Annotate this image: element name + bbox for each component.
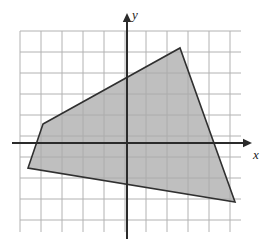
x-axis-arrowhead [243, 139, 252, 147]
shaded-region-group [28, 48, 235, 202]
coordinate-plane-figure: y x [0, 0, 274, 248]
x-axis-label: x [253, 148, 259, 161]
shaded-quadrilateral [28, 48, 235, 202]
plot-canvas [0, 0, 274, 248]
y-axis-arrowhead [123, 13, 131, 22]
y-axis-label: y [132, 8, 138, 21]
